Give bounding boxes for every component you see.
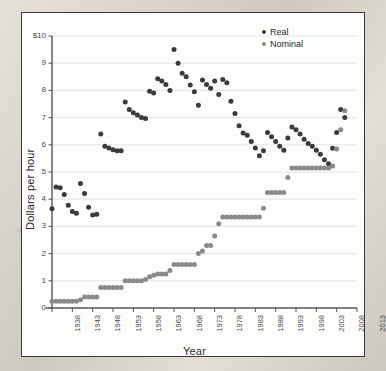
legend-item-nominal[interactable]: Nominal (262, 39, 303, 49)
data-point (172, 47, 177, 52)
data-point (82, 191, 87, 196)
x-tick-label: 1988 (276, 315, 285, 332)
data-point (245, 133, 250, 138)
data-point (123, 100, 128, 105)
y-tick-label: 2 (42, 249, 46, 258)
data-point (212, 78, 217, 83)
data-point (233, 111, 238, 116)
y-tick-label: 7 (42, 113, 46, 122)
data-point (50, 206, 55, 211)
data-point (237, 123, 242, 128)
y-tick-label: 9 (42, 58, 46, 67)
y-tick-label: 5 (42, 167, 46, 176)
data-point (127, 107, 132, 112)
data-point (204, 82, 209, 87)
data-point (200, 78, 205, 83)
data-point (285, 136, 290, 141)
data-point (78, 297, 83, 302)
data-point (66, 203, 71, 208)
data-point (192, 262, 197, 267)
data-point (98, 131, 103, 136)
data-point (159, 78, 164, 83)
data-point (119, 148, 124, 153)
data-point (74, 211, 79, 216)
x-tick-label: 1958 (154, 315, 163, 332)
y-tick-label: 0 (42, 303, 46, 312)
x-tick-label: 1968 (194, 315, 203, 332)
x-tick-label: 2003 (337, 315, 346, 332)
data-point (257, 153, 262, 158)
data-point (342, 115, 347, 120)
x-tick-label: 2008 (357, 315, 366, 332)
data-point (330, 164, 335, 169)
y-tick-label: $10 (33, 31, 46, 40)
data-point (94, 212, 99, 217)
y-tick-label: 1 (42, 276, 46, 285)
data-point (338, 127, 343, 132)
data-point (167, 268, 172, 273)
data-point (78, 181, 83, 186)
x-tick-label: 1948 (113, 315, 122, 332)
data-point (318, 152, 323, 157)
data-point (216, 221, 221, 226)
data-point (184, 74, 189, 79)
data-point (257, 214, 262, 219)
data-point (143, 116, 148, 121)
legend-marker-icon (262, 30, 266, 34)
data-point (188, 82, 193, 87)
x-tick-label: 1983 (255, 315, 264, 332)
data-point (167, 88, 172, 93)
data-point (212, 233, 217, 238)
data-point (143, 277, 148, 282)
x-tick-label: 1993 (296, 315, 305, 332)
data-point (151, 91, 156, 96)
data-point (285, 175, 290, 180)
scatter-chart: 0123456789$10193819431948195319581963196… (0, 0, 386, 371)
data-point (163, 272, 168, 277)
x-tick-label: 1943 (93, 315, 102, 332)
data-point (277, 144, 282, 149)
data-point (322, 157, 327, 162)
legend-label: Real (270, 27, 289, 37)
x-tick-label: 1978 (235, 315, 244, 332)
data-point (261, 206, 266, 211)
y-tick-label: 8 (42, 85, 46, 94)
data-point (273, 139, 278, 144)
data-point (196, 103, 201, 108)
data-point (261, 148, 266, 153)
legend-marker-icon (262, 42, 266, 46)
data-point (119, 285, 124, 290)
legend-item-real[interactable]: Real (262, 27, 289, 37)
data-point (281, 148, 286, 153)
data-point (180, 71, 185, 76)
y-tick-label: 4 (42, 194, 46, 203)
data-point (314, 148, 319, 153)
data-point (253, 146, 258, 151)
data-point (62, 192, 67, 197)
data-point (163, 82, 168, 87)
x-tick-label: 1953 (133, 315, 142, 332)
data-point (306, 141, 311, 146)
y-tick-label: 6 (42, 140, 46, 149)
data-point (294, 127, 299, 132)
data-point (342, 108, 347, 113)
x-tick-label: 1963 (174, 315, 183, 332)
data-point (224, 80, 229, 85)
data-point (216, 92, 221, 97)
data-point (228, 99, 233, 104)
data-point (249, 139, 254, 144)
data-point (208, 243, 213, 248)
data-point (58, 185, 63, 190)
data-point (269, 134, 274, 139)
x-tick-label: 2013 (377, 315, 386, 332)
series-real (50, 47, 348, 217)
data-point (176, 61, 181, 66)
x-axis-title: Year (183, 345, 206, 357)
y-tick-label: 3 (42, 221, 46, 230)
data-point (289, 125, 294, 130)
data-point (302, 137, 307, 142)
data-point (310, 144, 315, 149)
data-point (86, 205, 91, 210)
y-axis-title: Dollars per hour (24, 149, 36, 230)
data-point (135, 112, 140, 117)
